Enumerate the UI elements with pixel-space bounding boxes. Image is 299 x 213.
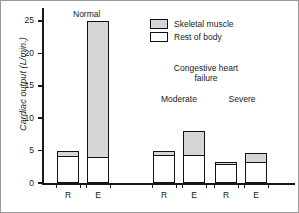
x-tick bbox=[176, 183, 177, 188]
bar bbox=[183, 131, 205, 183]
chf-line-1: Congestive heart bbox=[153, 63, 259, 73]
legend-item-rest-of-body: Rest of body bbox=[150, 32, 234, 42]
x-tick bbox=[86, 183, 87, 188]
bar-segment-skeletal-muscle bbox=[154, 152, 174, 157]
legend-swatch-skeletal-muscle bbox=[150, 19, 168, 29]
legend-item-skeletal-muscle: Skeletal muscle bbox=[150, 19, 234, 29]
y-tick bbox=[38, 53, 42, 55]
x-tick-label: R bbox=[58, 191, 78, 200]
chf-line-2: failure bbox=[153, 73, 259, 83]
legend-swatch-rest-of-body bbox=[150, 32, 168, 42]
y-tick-label: 15 bbox=[4, 81, 34, 90]
y-tick bbox=[38, 182, 42, 184]
x-tick-label: E bbox=[246, 191, 266, 200]
bar bbox=[245, 153, 267, 183]
y-tick-label: 20 bbox=[4, 49, 34, 58]
bar bbox=[57, 151, 79, 183]
x-tick bbox=[214, 183, 215, 188]
bar-segment-skeletal-muscle bbox=[58, 152, 78, 157]
y-axis-line bbox=[42, 8, 44, 184]
x-tick bbox=[56, 183, 57, 188]
x-tick bbox=[268, 183, 269, 188]
x-tick-label: E bbox=[184, 191, 204, 200]
x-tick-label: R bbox=[154, 191, 174, 200]
y-tick-label: 10 bbox=[4, 114, 34, 123]
x-tick bbox=[152, 183, 153, 188]
y-tick bbox=[38, 20, 42, 22]
x-tick bbox=[244, 183, 245, 188]
y-tick-label: 25 bbox=[4, 16, 34, 25]
x-tick bbox=[238, 183, 239, 188]
legend-label-rest-of-body: Rest of body bbox=[174, 33, 222, 42]
y-tick-label: 0 bbox=[4, 179, 34, 188]
bar-segment-skeletal-muscle bbox=[184, 132, 204, 156]
chart-figure: Cardiac output (L/min.) 0510152025 RERER… bbox=[0, 0, 299, 213]
bar bbox=[153, 151, 175, 183]
y-tick bbox=[38, 117, 42, 119]
y-tick bbox=[38, 85, 42, 87]
x-tick bbox=[80, 183, 81, 188]
x-tick bbox=[182, 183, 183, 188]
legend: Skeletal muscle Rest of body bbox=[150, 19, 234, 45]
y-tick bbox=[38, 150, 42, 152]
bar-segment-skeletal-muscle bbox=[246, 154, 266, 164]
bar bbox=[87, 21, 109, 183]
group-label-severe: Severe bbox=[216, 94, 268, 104]
x-tick-label: R bbox=[216, 191, 236, 200]
x-tick-label: E bbox=[88, 191, 108, 200]
bar-segment-skeletal-muscle bbox=[88, 22, 108, 158]
annotation-congestive-heart-failure: Congestive heart failure bbox=[153, 63, 259, 83]
x-tick bbox=[206, 183, 207, 188]
group-label-normal: Normal bbox=[73, 9, 100, 19]
bar bbox=[215, 162, 237, 183]
bar-segment-skeletal-muscle bbox=[216, 163, 236, 166]
x-tick bbox=[110, 183, 111, 188]
legend-label-skeletal-muscle: Skeletal muscle bbox=[174, 20, 234, 29]
y-tick-label: 5 bbox=[4, 146, 34, 155]
group-label-moderate: Moderate bbox=[149, 94, 209, 104]
